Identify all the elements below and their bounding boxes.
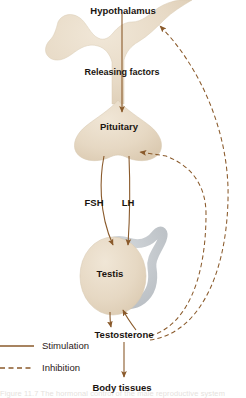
label-testosterone: Testosterone (95, 329, 154, 340)
label-fsh: FSH (85, 197, 104, 208)
label-pituitary: Pituitary (100, 121, 139, 132)
label-hypothalamus: Hypothalamus (90, 5, 155, 16)
figure-caption-partial: Figure 11.7 The hormonal control of the … (0, 389, 246, 398)
legend-label-stimulation: Stimulation (42, 340, 89, 351)
legend-item-inhibition: Inhibition (0, 362, 80, 373)
arrow-testosterone-to-hypothalamus-inhibition (150, 26, 228, 340)
hpg-axis-diagram: Hypothalamus Pituitary Testis Testostero… (0, 0, 246, 398)
legend: Stimulation Inhibition (0, 340, 89, 373)
hypothalamus-anatomy-shape (46, 0, 193, 104)
arrow-testosterone-to-testis (123, 310, 136, 330)
label-testis: Testis (97, 268, 124, 279)
label-lh: LH (122, 197, 135, 208)
legend-label-inhibition: Inhibition (42, 362, 80, 373)
legend-item-stimulation: Stimulation (0, 340, 89, 351)
label-releasing-factors: Releasing factors (84, 67, 159, 77)
diagram-canvas: Hypothalamus Pituitary Testis Testostero… (0, 0, 246, 398)
